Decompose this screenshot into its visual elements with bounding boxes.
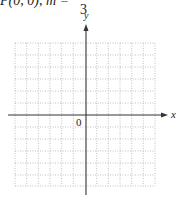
y-axis-label: y: [84, 10, 88, 21]
x-axis-arrow-icon: [161, 113, 168, 118]
origin-label: 0: [76, 116, 82, 128]
coordinate-grid: [0, 0, 179, 200]
x-axis-label: x: [171, 108, 176, 120]
axes: [8, 28, 165, 195]
y-axis-arrow-icon: [84, 24, 89, 31]
